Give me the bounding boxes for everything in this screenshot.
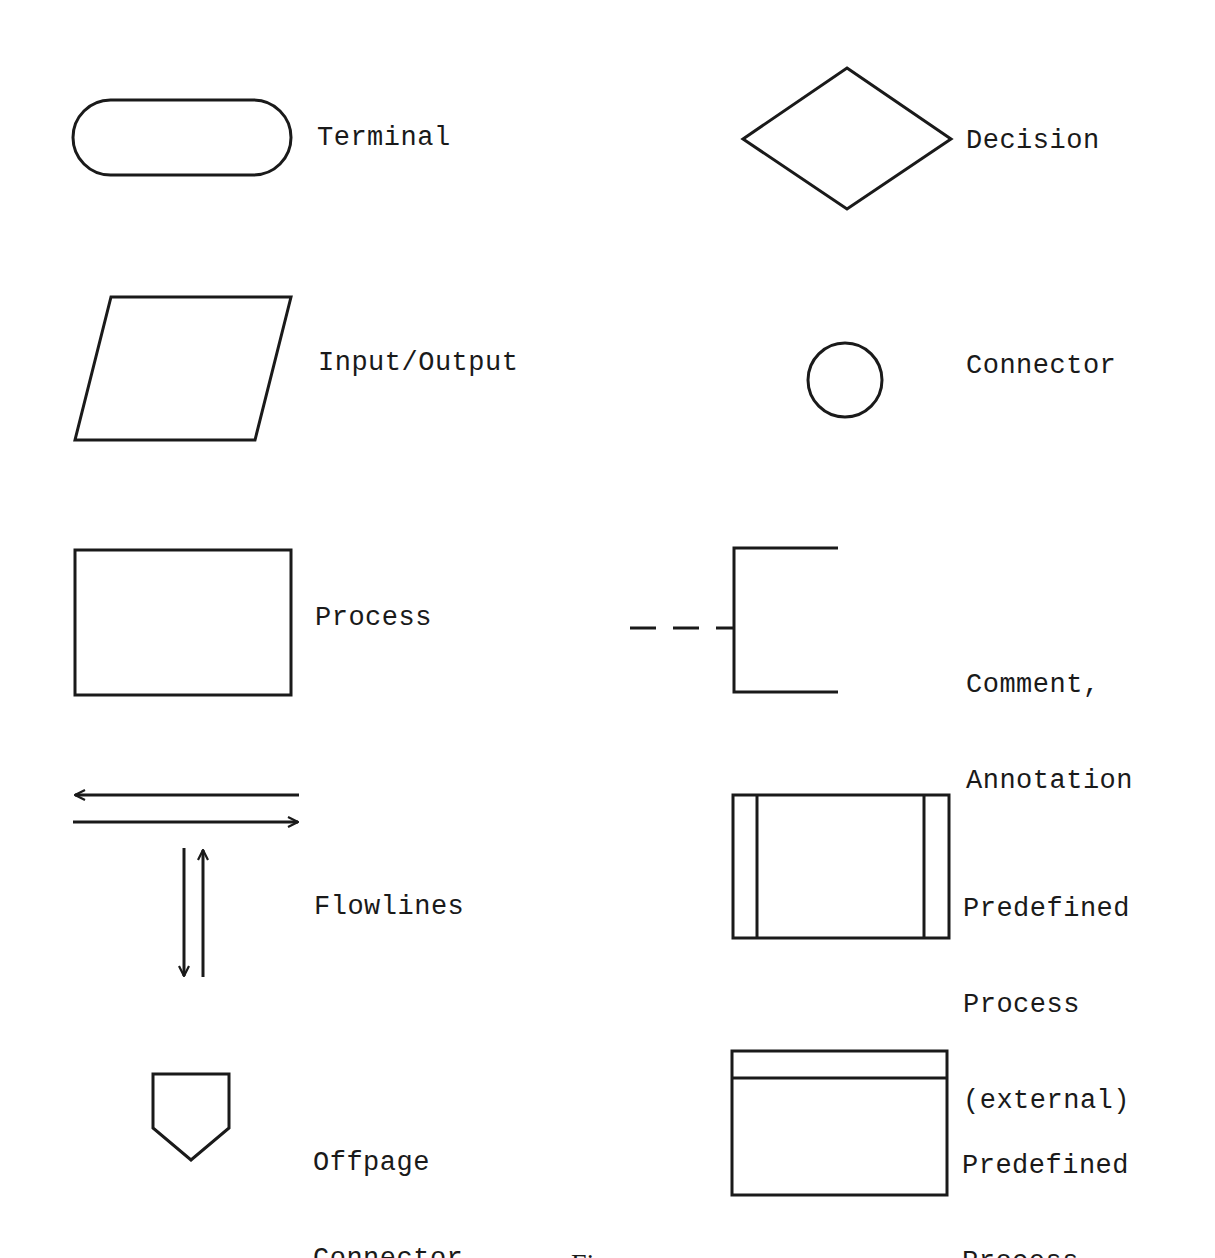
comment-annotation-label: Comment, Annotation xyxy=(966,605,1133,829)
comment-label-line-1: Comment, xyxy=(966,669,1133,701)
figure-caption: Figure xyxy=(0,1248,1215,1258)
process-label: Process xyxy=(315,602,432,634)
flowlines-symbol xyxy=(73,795,299,977)
terminal-label: Terminal xyxy=(317,122,451,154)
offpage-connector-label: Offpage Connector xyxy=(313,1083,463,1258)
predefined-process-external-symbol xyxy=(733,795,949,938)
predefined-external-line-2: Process xyxy=(963,989,1130,1021)
connector-symbol xyxy=(808,343,882,417)
input-output-label: Input/Output xyxy=(318,347,518,379)
predefined-internal-line-1: Predefined xyxy=(962,1150,1129,1182)
offpage-connector-symbol xyxy=(153,1074,229,1160)
comment-annotation-symbol xyxy=(630,548,838,692)
predefined-internal-label: Predefined Process (internal) xyxy=(962,1086,1129,1258)
predefined-process-internal-symbol xyxy=(732,1051,947,1195)
terminal-symbol xyxy=(73,100,291,175)
comment-label-line-2: Annotation xyxy=(966,765,1133,797)
decision-symbol xyxy=(743,68,951,209)
flowlines-label: Flowlines xyxy=(314,891,464,923)
input-output-symbol xyxy=(75,297,291,440)
predefined-external-line-1: Predefined xyxy=(963,893,1130,925)
process-symbol xyxy=(75,550,291,695)
decision-label: Decision xyxy=(966,125,1100,157)
connector-label: Connector xyxy=(966,350,1116,382)
offpage-label-line-1: Offpage xyxy=(313,1147,463,1179)
